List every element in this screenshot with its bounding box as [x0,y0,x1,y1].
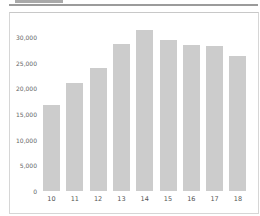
bar-14 [136,30,153,191]
header-divider [9,4,258,6]
y-tick-label: 20,000 [16,85,37,92]
bar-18 [229,56,246,191]
bar-10 [43,105,60,191]
bar-11 [66,83,83,191]
y-tick-label: 30,000 [16,34,37,41]
x-tick-label: 10 [43,195,60,203]
bar-12 [90,68,107,191]
y-tick-label: 25,000 [16,59,37,66]
x-tick-label: 15 [160,195,177,203]
bar-13 [113,44,130,191]
x-tick-label: 11 [66,195,83,203]
y-tick-label: 15,000 [16,111,37,118]
x-tick-label: 14 [136,195,153,203]
y-tick-label: 0 [33,188,37,195]
x-tick-label: 12 [90,195,107,203]
x-tick-label: 18 [229,195,246,203]
bar-17 [206,46,223,191]
x-tick-label: 17 [206,195,223,203]
bar-15 [160,40,177,191]
x-tick-label: 16 [183,195,200,203]
y-tick-label: 10,000 [16,136,37,143]
header-tab [15,0,63,3]
y-tick-label: 5,000 [20,162,37,169]
x-tick-label: 13 [113,195,130,203]
bar-16 [183,45,200,191]
